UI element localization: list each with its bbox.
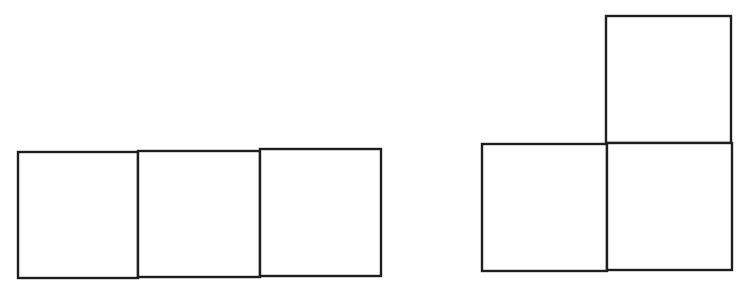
square-cell xyxy=(606,16,731,143)
square-cell xyxy=(607,143,732,270)
square-cell xyxy=(482,144,607,271)
row-of-three-squares xyxy=(18,149,381,278)
square-cell xyxy=(18,152,138,278)
square-cell xyxy=(260,149,381,276)
square-cell xyxy=(138,151,260,277)
l-shape-three-squares xyxy=(482,16,732,271)
diagram-canvas xyxy=(0,0,745,299)
